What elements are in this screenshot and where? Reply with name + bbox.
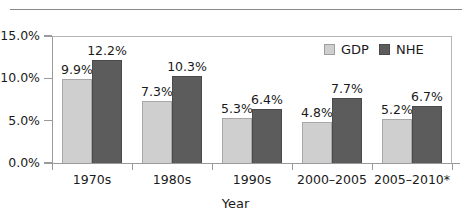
chart-legend: GDP NHE [318,40,430,59]
x-axis-tick [372,163,373,170]
bar-value-label: 12.2% [83,43,131,58]
bar-gdp[interactable] [62,79,92,163]
bar-value-label: 10.3% [163,59,211,74]
x-axis-tick-label: 2005–2010* [362,172,462,187]
x-axis-tick [292,163,293,170]
top-divider [10,9,462,10]
x-axis-tick [132,163,133,170]
legend-swatch-gdp [324,44,335,55]
bar-nhe[interactable] [412,106,442,163]
x-axis-title: Year [0,196,471,211]
legend-label-gdp: GDP [341,42,369,57]
legend-item-nhe[interactable]: NHE [379,42,424,57]
bar-nhe[interactable] [92,60,122,163]
bar-nhe[interactable] [172,76,202,163]
legend-swatch-nhe [379,44,390,55]
bar-gdp[interactable] [142,101,172,163]
y-axis-tick [44,35,52,36]
y-axis-tick [44,78,52,79]
bar-value-label: 6.4% [243,92,291,107]
y-axis-tick-label: 0.0% [0,155,40,170]
legend-item-gdp[interactable]: GDP [324,42,369,57]
bar-group: 5.3%6.4% [212,36,292,163]
y-axis-tick-label: 5.0% [0,113,40,128]
x-axis-tick [212,163,213,170]
y-axis-tick-label: 10.0% [0,70,40,85]
x-axis-line [44,163,460,164]
bar-value-label: 7.7% [323,81,371,96]
chart-figure: 0.0%5.0%10.0%15.0% 9.9%12.2%7.3%10.3%5.3… [0,0,471,220]
bar-value-label: 6.7% [403,89,451,104]
bar-gdp[interactable] [222,118,252,163]
bar-group: 9.9%12.2% [52,36,132,163]
bar-group: 7.3%10.3% [132,36,212,163]
x-axis-tick [452,163,453,170]
legend-label-nhe: NHE [396,42,424,57]
x-axis-tick [52,163,53,170]
bar-gdp[interactable] [382,119,412,163]
bar-nhe[interactable] [252,109,282,163]
y-axis-tick-label: 15.0% [0,28,40,43]
bar-gdp[interactable] [302,122,332,163]
y-axis-tick [44,120,52,121]
bar-nhe[interactable] [332,98,362,163]
